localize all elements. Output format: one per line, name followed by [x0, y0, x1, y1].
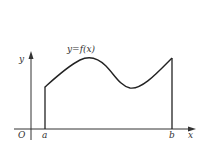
origin-label: O — [18, 130, 26, 140]
function-curve — [45, 58, 172, 89]
y-axis-label: y — [18, 54, 25, 64]
left-bound-label: a — [42, 130, 47, 140]
y-axis-arrow-icon — [29, 51, 34, 59]
x-axis-label: x — [188, 130, 193, 140]
curve-label: y=f(x) — [66, 44, 96, 54]
y-axis — [29, 51, 34, 140]
right-bound-label: b — [169, 130, 175, 140]
diagram-canvas: y=f(x) y x O a b — [0, 0, 210, 157]
